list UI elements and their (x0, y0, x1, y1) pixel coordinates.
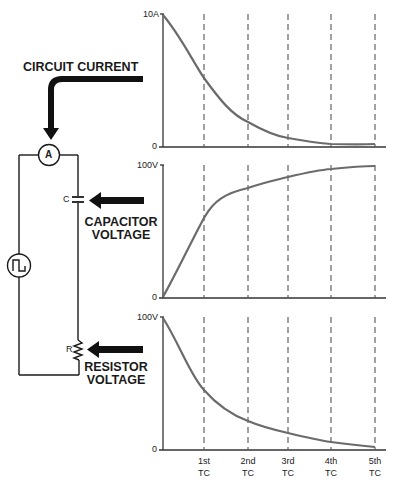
capacitor-icon (72, 197, 84, 202)
capacitor-chart (159, 165, 386, 298)
capacitor-voltage-arrow-icon (89, 192, 144, 209)
resistor-voltage-label-line2: VOLTAGE (81, 374, 151, 387)
circuit-current-arrow-icon (43, 79, 143, 140)
current-ymin-label: 0 (152, 141, 157, 151)
tc-label-5: 5thTC (360, 455, 390, 479)
current-curve (163, 15, 375, 144)
resistor-chart (159, 317, 386, 450)
resistor-label: R (66, 344, 73, 354)
circuit-current-label: CIRCUIT CURRENT (23, 61, 138, 74)
resistor-curve (163, 318, 375, 447)
capacitor-label: C (63, 194, 70, 204)
tc-label-1: 1stTC (189, 455, 219, 479)
square-wave-source-icon (8, 254, 31, 277)
capacitor-voltage-label: CAPACITOR VOLTAGE (82, 216, 160, 242)
current-ymax-label: 10A (143, 9, 159, 19)
capacitor-ymin-label: 0 (152, 292, 157, 302)
ammeter-label: A (45, 149, 52, 160)
resistor-voltage-label: RESISTOR VOLTAGE (81, 361, 151, 387)
resistor-ymax-label: 100V (137, 312, 158, 322)
capacitor-curve (163, 166, 375, 297)
capacitor-ymax-label: 100V (137, 160, 158, 170)
tc-label-4: 4thTC (316, 455, 346, 479)
resistor-voltage-arrow-icon (87, 341, 143, 358)
current-chart (159, 14, 386, 147)
tc-label-3: 3rdTC (273, 455, 303, 479)
resistor-icon (74, 340, 82, 360)
tc-label-2: 2ndTC (233, 455, 263, 479)
capacitor-voltage-label-line2: VOLTAGE (82, 229, 160, 242)
resistor-ymin-label: 0 (152, 444, 157, 454)
